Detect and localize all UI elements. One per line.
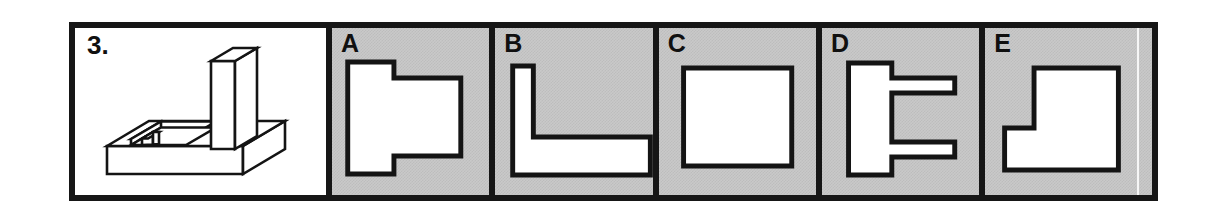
l-shape-outline-svg: [495, 28, 652, 195]
pocket-step-side: [153, 132, 159, 145]
option-panel-e[interactable]: E: [979, 28, 1152, 195]
option-e-shape: [985, 28, 1152, 195]
option-panel-b[interactable]: B: [489, 28, 652, 195]
fin-front-face: [211, 61, 235, 149]
screenshot-root: 3.: [0, 0, 1214, 221]
option-a-shape: [332, 28, 489, 195]
notched-square-path: [1005, 68, 1119, 170]
option-panel-c[interactable]: C: [653, 28, 816, 195]
fin-side-face: [235, 48, 257, 149]
panel-row: 3.: [75, 28, 1152, 195]
double-arm-outline-svg: [822, 28, 979, 195]
option-b-shape: [495, 28, 652, 195]
stepped-tee-outline-svg: [332, 28, 489, 195]
question-panel: 3.: [75, 28, 326, 195]
isometric-pictorial-block: [75, 28, 326, 195]
stepped-tee-path: [348, 62, 461, 174]
isometric-pictorial-svg: [75, 28, 326, 195]
option-panel-d[interactable]: D: [816, 28, 979, 195]
notched-square-outline-svg: [985, 28, 1152, 195]
l-shape-path: [513, 66, 651, 175]
option-panel-a[interactable]: A: [326, 28, 489, 195]
question-strip-frame: 3.: [69, 22, 1158, 201]
option-d-shape: [822, 28, 979, 195]
plain-rectangle-path: [683, 68, 791, 166]
double-arm-path: [848, 63, 954, 175]
plain-rectangle-outline-svg: [659, 28, 816, 195]
option-c-shape: [659, 28, 816, 195]
